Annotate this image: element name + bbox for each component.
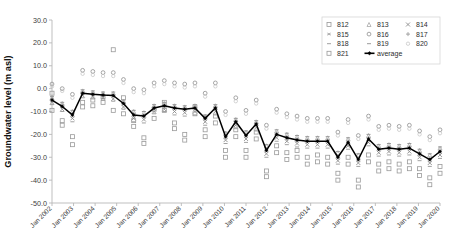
marker-square	[173, 121, 177, 125]
y-axis-title: Groundwater level (m asl)	[3, 55, 13, 167]
marker-square	[244, 148, 248, 152]
marker-circle	[234, 96, 238, 100]
marker-circle	[285, 112, 289, 116]
marker-circle	[305, 116, 309, 120]
series-816	[50, 68, 442, 138]
marker-square	[305, 155, 309, 159]
marker-square	[81, 105, 85, 109]
marker-square	[142, 136, 146, 140]
series-average	[50, 92, 441, 161]
marker-square	[356, 178, 360, 182]
marker-square	[367, 153, 371, 157]
legend-label: 812	[337, 21, 349, 28]
marker-circle	[367, 114, 371, 118]
series-813	[50, 89, 442, 157]
marker-square	[367, 160, 371, 164]
x-tick-label: Jan 2018	[373, 205, 397, 229]
marker-circle	[418, 129, 422, 133]
marker-circle	[407, 123, 411, 127]
marker-square	[377, 169, 381, 173]
marker-square	[70, 135, 74, 139]
average-line	[52, 93, 440, 159]
legend-label: 820	[416, 40, 428, 47]
marker-square	[132, 124, 136, 128]
marker-circle	[224, 110, 228, 114]
marker-circle	[162, 79, 166, 83]
marker-square	[336, 178, 340, 182]
y-tick-label: 0.0	[37, 84, 47, 93]
marker-square	[275, 144, 279, 148]
marker-circle	[438, 128, 442, 132]
marker-square	[142, 142, 146, 146]
marker-circle	[377, 124, 381, 128]
x-tick-label: Jan 2013	[266, 205, 290, 229]
marker-square	[418, 167, 422, 171]
marker-square	[346, 155, 350, 159]
marker-circle	[203, 91, 207, 95]
legend-label: 821	[337, 50, 349, 57]
series-815	[50, 93, 442, 162]
x-tick-label: Jan 2004	[72, 205, 96, 229]
legend-label: average	[377, 50, 402, 58]
marker-square	[285, 151, 289, 155]
marker-circle	[213, 81, 217, 85]
y-tick-label: -20.0	[31, 130, 47, 139]
marker-square	[305, 162, 309, 166]
series-819	[50, 90, 442, 154]
marker-square	[397, 169, 401, 173]
marker-circle	[91, 70, 95, 74]
marker-square	[111, 48, 115, 52]
x-tick-label: Jan 2009	[179, 205, 203, 229]
x-tick-label: Jan 2006	[115, 205, 139, 229]
legend-label: 817	[416, 31, 428, 38]
y-tick-label: -10.0	[31, 107, 47, 116]
marker-square	[295, 148, 299, 152]
y-axis-title-text: Groundwater level (m asl)	[3, 55, 13, 167]
marker-circle	[265, 123, 269, 127]
marker-square	[203, 128, 207, 132]
marker-square	[326, 155, 330, 159]
marker-square	[387, 160, 391, 164]
marker-circle	[101, 71, 105, 75]
marker-square	[121, 112, 125, 116]
marker-square	[356, 185, 360, 189]
marker-square	[224, 148, 228, 152]
marker-circle	[387, 123, 391, 127]
marker-circle	[428, 135, 432, 139]
marker-square	[254, 137, 258, 141]
marker-square	[213, 121, 217, 125]
legend-label: 814	[416, 21, 428, 28]
y-tick-label: -40.0	[31, 176, 47, 185]
series-821	[50, 100, 442, 189]
marker-square	[224, 155, 228, 159]
x-tick-label: Jan 2005	[93, 205, 117, 229]
marker-circle	[152, 81, 156, 85]
marker-square	[407, 160, 411, 164]
marker-square	[81, 100, 85, 104]
series-817	[50, 90, 442, 160]
marker-circle	[81, 68, 85, 72]
marker-square	[264, 175, 268, 179]
marker-square	[377, 162, 381, 166]
y-axis: 30.020.010.00.0-10.0-20.0-30.0-40.0-50.0	[31, 16, 52, 208]
legend-label: 818	[337, 40, 349, 47]
x-tick-label: Jan 2008	[158, 205, 182, 229]
x-tick-label: Jan 2010	[201, 205, 225, 229]
marker-square	[60, 119, 64, 123]
x-tick-label: Jan 2011	[223, 205, 247, 229]
legend: 812813814815816817818819820821average	[322, 17, 440, 64]
data-series-group	[50, 48, 442, 189]
marker-square	[183, 138, 187, 142]
marker-square	[438, 171, 442, 175]
marker-square	[173, 127, 177, 131]
x-tick-label: Jan 2017	[352, 205, 376, 229]
marker-circle	[397, 124, 401, 128]
marker-square	[315, 160, 319, 164]
marker-square	[285, 158, 289, 162]
marker-circle	[193, 81, 197, 85]
x-tick-label: Jan 2007	[136, 205, 160, 229]
x-tick-label: Jan 2019	[395, 205, 419, 229]
marker-circle	[275, 107, 279, 111]
x-tick-label: Jan 2012	[244, 205, 268, 229]
marker-square	[387, 167, 391, 171]
